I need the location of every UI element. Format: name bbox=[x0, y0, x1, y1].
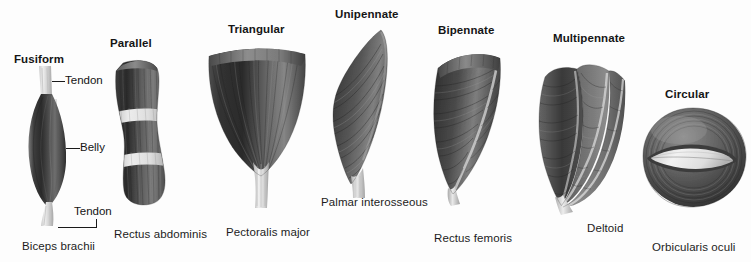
circular-muscle-illustration bbox=[641, 106, 749, 210]
example-caption-orbicularis-oculi: Orbicularis oculi bbox=[652, 241, 736, 253]
fusiform-muscle-illustration bbox=[22, 66, 74, 226]
annotation-belly: Belly bbox=[80, 141, 105, 153]
multipennate-muscle-illustration bbox=[535, 55, 643, 215]
parallel-muscle-illustration bbox=[107, 57, 175, 209]
example-caption-palmar-interosseous: Palmar interosseous bbox=[321, 196, 428, 208]
bipennate-muscle-illustration bbox=[426, 42, 512, 206]
example-caption-pectoralis-major: Pectoralis major bbox=[226, 226, 310, 238]
example-caption-rectus-abdominis: Rectus abdominis bbox=[114, 228, 207, 240]
type-title-fusiform: Fusiform bbox=[14, 53, 64, 65]
type-title-multipennate: Multipennate bbox=[553, 32, 625, 44]
unipennate-muscle-illustration bbox=[325, 26, 405, 198]
tendon-lower-bracket-tick bbox=[96, 219, 97, 228]
example-caption-deltoid: Deltoid bbox=[587, 222, 624, 234]
example-caption-biceps-brachii: Biceps brachii bbox=[22, 240, 95, 252]
tendon-lower-leader-line bbox=[58, 227, 96, 228]
type-title-triangular: Triangular bbox=[228, 23, 285, 35]
belly-leader-line bbox=[66, 148, 80, 149]
type-title-bipennate: Bipennate bbox=[438, 24, 495, 36]
type-title-circular: Circular bbox=[665, 88, 709, 100]
tendon-upper-leader-line bbox=[52, 81, 65, 82]
triangular-muscle-illustration bbox=[205, 40, 315, 210]
annotation-tendon-upper: Tendon bbox=[65, 74, 103, 86]
example-caption-rectus-femoris: Rectus femoris bbox=[434, 232, 512, 244]
type-title-unipennate: Unipennate bbox=[335, 8, 399, 20]
type-title-parallel: Parallel bbox=[110, 37, 152, 49]
muscle-fiber-arrangement-figure: Fusiform bbox=[0, 0, 751, 262]
